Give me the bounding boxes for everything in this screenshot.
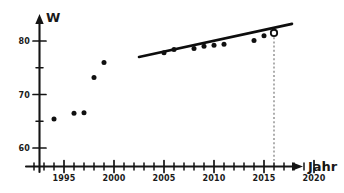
x-axis-label: Jahr	[307, 159, 338, 174]
data-point	[262, 33, 267, 38]
data-point	[222, 42, 227, 47]
y-tick-label: 60	[18, 144, 30, 153]
x-tick-label: 2015	[252, 174, 275, 183]
data-point	[172, 47, 177, 52]
data-point	[192, 46, 197, 51]
x-tick-label: 2010	[202, 174, 225, 183]
y-tick-label: 70	[18, 91, 30, 100]
y-tick-label: 80	[18, 37, 30, 46]
data-point	[82, 110, 87, 115]
y-tick-label-group: 607080	[18, 37, 30, 153]
y-axis-arrow-icon	[35, 14, 43, 24]
data-point	[92, 75, 97, 80]
data-point	[202, 44, 207, 49]
x-tick-label: 1995	[52, 174, 75, 183]
data-point	[252, 38, 257, 43]
x-axis: Jahr	[26, 159, 338, 174]
data-point	[212, 43, 217, 48]
x-tick-label: 2005	[152, 174, 175, 183]
x-tick-label: 2000	[102, 174, 125, 183]
data-point	[52, 117, 57, 122]
x-tick-label-group: 199520002005201020152020	[52, 174, 325, 183]
scatter-plot: W Jahr 607080 199520002005201020152020	[0, 0, 344, 193]
projection-point-group	[271, 30, 277, 36]
data-point	[162, 50, 167, 55]
data-point	[72, 111, 77, 116]
data-point	[102, 60, 107, 65]
chart-canvas: W Jahr 607080 199520002005201020152020	[0, 0, 344, 193]
projection-point-marker	[271, 30, 277, 36]
y-axis-label: W	[46, 10, 60, 25]
data-point-group	[52, 33, 267, 121]
x-tick-label: 2020	[302, 174, 325, 183]
